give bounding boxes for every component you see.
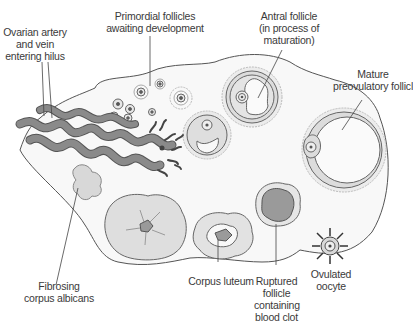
label-line: preovulatory follicle (333, 80, 413, 92)
label-mature-follicle: Mature preovulatory follicle (333, 68, 413, 92)
label-line: containing (254, 299, 299, 311)
label-line: Ovarian artery (0, 26, 70, 38)
label-line: awaiting development (100, 22, 210, 34)
label-line: Corpus luteum (186, 275, 256, 287)
ovulated-oocyte (312, 228, 348, 264)
label-primordial-follicles: Primordial follicles awaiting developmen… (100, 10, 210, 34)
label-line: Ovulated (310, 268, 352, 280)
label-line: Primordial follicles (100, 10, 210, 22)
label-line: Fibrosing (24, 280, 94, 292)
corpus-albicans-large (105, 194, 186, 260)
label-line: entering hilus (0, 50, 70, 62)
label-line: (in process of (254, 22, 324, 34)
label-corpus-albicans: Fibrosing corpus albicans (24, 280, 94, 304)
label-line: corpus albicans (24, 292, 94, 304)
label-line: Ruptured (254, 275, 299, 287)
label-antral-follicle: Antral follicle (in process of maturatio… (254, 10, 324, 46)
label-corpus-luteum: Corpus luteum (186, 275, 256, 287)
label-ruptured-follicle: Ruptured follicle containing blood clot (254, 275, 299, 323)
label-ovulated-oocyte: Ovulated oocyte (310, 268, 352, 292)
label-line: Antral follicle (254, 10, 324, 22)
label-line: and vein (0, 38, 70, 50)
label-ovarian-artery: Ovarian artery and vein entering hilus (0, 26, 70, 62)
mature-follicle (302, 108, 386, 192)
label-line: Mature (333, 68, 413, 80)
label-line: follicle (254, 287, 299, 299)
label-line: blood clot (254, 311, 299, 323)
corpus-luteum (193, 213, 253, 259)
label-line: maturation) (254, 34, 324, 46)
growing-follicle (183, 111, 231, 159)
ruptured-follicle (256, 183, 301, 226)
antral-follicle (222, 67, 282, 127)
label-line: oocyte (310, 280, 352, 292)
